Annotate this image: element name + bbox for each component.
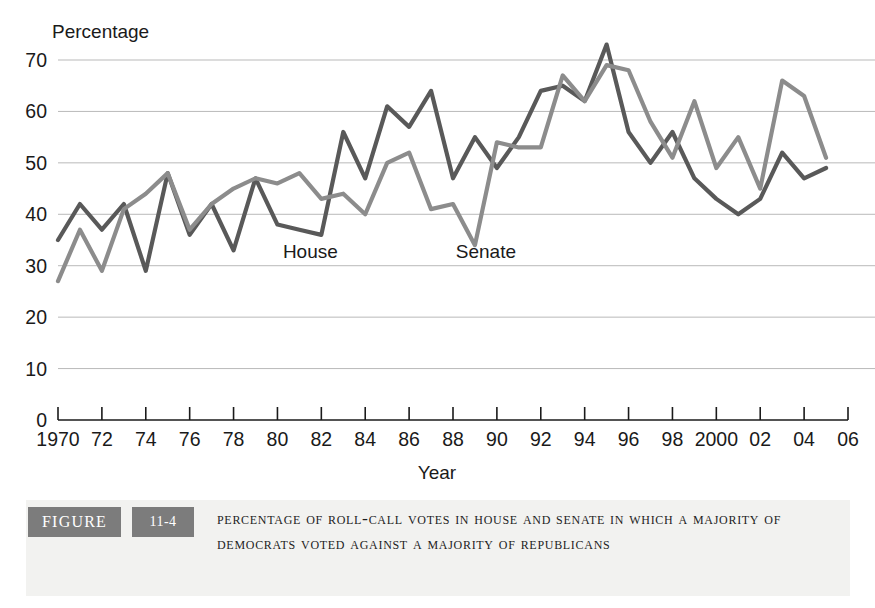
y-tick-label: 10 — [25, 358, 47, 380]
y-tick-label: 70 — [25, 49, 47, 71]
x-tick-label: 88 — [442, 428, 464, 450]
x-tick-label: 06 — [837, 428, 859, 450]
x-tick-label: 04 — [793, 428, 815, 450]
line-chart: 010203040506070 197072747678808284868890… — [0, 0, 875, 492]
x-tick-label: 1970 — [36, 428, 80, 450]
x-tick-label: 74 — [135, 428, 157, 450]
figure-number-badge: 11-4 — [132, 507, 194, 537]
x-tick-label: 78 — [223, 428, 245, 450]
x-tick-label: 72 — [91, 428, 113, 450]
series-label-senate: Senate — [456, 241, 516, 262]
x-tick-label: 90 — [486, 428, 508, 450]
series-annotations: HouseSenate — [283, 241, 516, 262]
x-tick-label: 92 — [530, 428, 552, 450]
x-axis-title: Year — [418, 462, 457, 483]
x-tick-label: 76 — [179, 428, 201, 450]
y-tick-label: 50 — [25, 152, 47, 174]
y-tick-label: 30 — [25, 255, 47, 277]
y-axis-tick-labels: 010203040506070 — [25, 49, 47, 431]
x-tick-label: 2000 — [695, 428, 739, 450]
x-axis-line — [58, 407, 848, 420]
y-tick-label: 60 — [25, 100, 47, 122]
figure-caption-text: Percentage of Roll-Call Votes in House a… — [217, 506, 827, 556]
x-tick-label: 98 — [662, 428, 684, 450]
x-tick-label: 84 — [354, 428, 376, 450]
y-tick-label: 20 — [25, 306, 47, 328]
x-tick-label: 96 — [618, 428, 640, 450]
chart-area: 010203040506070 197072747678808284868890… — [0, 0, 875, 492]
x-tick-label: 82 — [310, 428, 332, 450]
x-tick-label: 80 — [267, 428, 289, 450]
figure-root: 010203040506070 197072747678808284868890… — [0, 0, 875, 608]
x-tick-label: 86 — [398, 428, 420, 450]
series-label-house: House — [283, 241, 338, 262]
figure-caption-block: FIGURE 11-4 Percentage of Roll-Call Vote… — [26, 500, 850, 596]
x-tick-label: 94 — [574, 428, 596, 450]
y-axis-title: Percentage — [52, 21, 149, 42]
figure-tag-badge: FIGURE — [28, 507, 121, 537]
x-tick-label: 02 — [749, 428, 771, 450]
series-line-senate — [58, 65, 826, 281]
x-axis-tick-labels: 1970727476788082848688909294969820000204… — [36, 428, 859, 450]
y-tick-label: 40 — [25, 203, 47, 225]
